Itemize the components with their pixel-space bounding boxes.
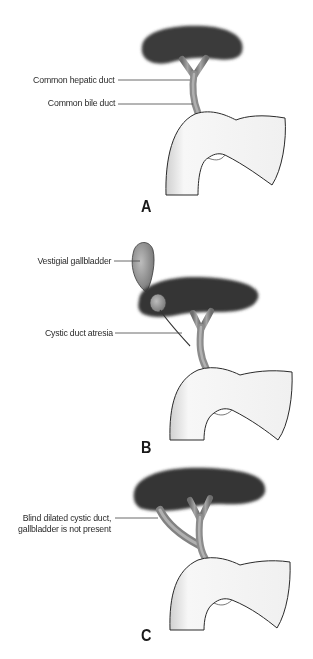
panel-a	[118, 26, 285, 195]
panel-c	[115, 468, 290, 630]
panel-letter-c: C	[141, 626, 151, 646]
label-common-hepatic-duct: Common hepatic duct	[33, 74, 115, 85]
blind-cystic-duct	[160, 510, 199, 545]
label-blind-dilated-cystic-duct: Blind dilated cystic duct,	[23, 512, 111, 523]
label-cystic-duct-atresia: Cystic duct atresia	[45, 327, 113, 338]
duodenum-c	[170, 558, 290, 630]
label-common-bile-duct: Common bile duct	[47, 97, 115, 108]
label-vestigial-gallbladder: Vestigial gallbladder	[37, 255, 111, 266]
panel-b	[114, 243, 292, 441]
duodenum-b	[170, 368, 292, 440]
panel-letter-a: A	[141, 197, 151, 217]
panel-letter-b: B	[141, 438, 151, 458]
vestigial-gallbladder	[132, 243, 154, 293]
duodenum-a	[166, 112, 286, 195]
liver-a	[142, 26, 243, 64]
liver-c	[134, 468, 266, 511]
label-gallbladder-not-present: gallbladder is not present	[18, 523, 111, 534]
